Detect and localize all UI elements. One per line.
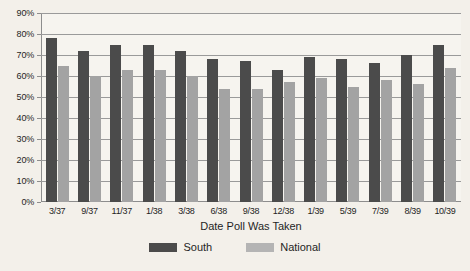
x-tick-label: 3/37 <box>41 203 73 219</box>
bar-south-9-38 <box>240 61 251 202</box>
x-tick-label: 1/38 <box>138 203 170 219</box>
x-tick-label: 9/38 <box>235 203 267 219</box>
y-tick-label: 10% <box>17 177 34 186</box>
y-tick-label: 80% <box>17 30 34 39</box>
bar-south-7-39 <box>369 63 380 202</box>
bar-group <box>429 13 461 202</box>
bar-group <box>332 13 364 202</box>
bar-group <box>41 13 73 202</box>
x-tick-label: 7/39 <box>364 203 396 219</box>
y-tick-label: 40% <box>17 114 34 123</box>
bar-national-7-39 <box>381 80 392 202</box>
bar-national-6-38 <box>219 89 230 202</box>
bar-south-1-38 <box>143 45 154 203</box>
bar-group <box>73 13 105 202</box>
bar-national-3-37 <box>58 66 69 203</box>
y-axis: 90%80%70%60%50%40%30%20%10%0% <box>0 0 41 203</box>
bar-national-1-39 <box>316 78 327 202</box>
y-tick-label: 0% <box>21 198 34 207</box>
y-tick-label: 20% <box>17 156 34 165</box>
legend-item-south: South <box>149 241 212 253</box>
bar-south-12-38 <box>272 70 283 202</box>
x-tick-label: 10/39 <box>429 203 461 219</box>
x-axis: 3/379/3711/371/383/386/389/3812/381/395/… <box>41 203 461 219</box>
x-tick-label: 3/38 <box>170 203 202 219</box>
y-tick-label: 60% <box>17 72 34 81</box>
bar-south-10-39 <box>433 45 444 203</box>
legend-label-national: National <box>280 241 320 253</box>
x-tick-label: 9/37 <box>73 203 105 219</box>
plot-area <box>41 13 461 202</box>
bar-national-9-37 <box>90 76 101 202</box>
y-tick-label: 30% <box>17 135 34 144</box>
x-tick-label: 6/38 <box>203 203 235 219</box>
bar-national-11-37 <box>122 70 133 202</box>
bar-group <box>396 13 428 202</box>
bar-south-1-39 <box>304 57 315 202</box>
bar-group <box>203 13 235 202</box>
y-tick-label: 90% <box>17 9 34 18</box>
bar-south-3-38 <box>175 51 186 202</box>
bars-layer <box>41 13 461 202</box>
bar-south-6-38 <box>207 59 218 202</box>
bar-group <box>170 13 202 202</box>
bar-national-10-39 <box>445 68 456 202</box>
bar-national-8-39 <box>413 84 424 202</box>
x-tick-label: 11/37 <box>106 203 138 219</box>
bar-group <box>235 13 267 202</box>
bar-group <box>106 13 138 202</box>
bar-south-9-37 <box>78 51 89 202</box>
bar-group <box>300 13 332 202</box>
bar-chart: 90%80%70%60%50%40%30%20%10%0% 3/379/3711… <box>0 0 470 271</box>
bar-group <box>267 13 299 202</box>
bar-national-12-38 <box>284 82 295 202</box>
x-tick-label: 8/39 <box>396 203 428 219</box>
bar-national-5-39 <box>348 87 359 203</box>
bar-national-3-38 <box>187 76 198 202</box>
x-axis-title: Date Poll Was Taken <box>41 220 461 233</box>
x-tick-label: 12/38 <box>267 203 299 219</box>
bar-south-11-37 <box>110 45 121 203</box>
bar-national-9-38 <box>252 89 263 202</box>
bar-south-3-37 <box>46 38 57 202</box>
legend-label-south: South <box>183 241 212 253</box>
national-swatch-icon <box>246 243 274 252</box>
bar-group <box>138 13 170 202</box>
y-tick-label: 70% <box>17 51 34 60</box>
bar-national-1-38 <box>155 70 166 202</box>
legend-item-national: National <box>246 241 320 253</box>
south-swatch-icon <box>149 243 177 252</box>
chart-legend: South National <box>0 241 470 253</box>
x-tick-label: 1/39 <box>300 203 332 219</box>
bar-south-8-39 <box>401 55 412 202</box>
y-tick-label: 50% <box>17 93 34 102</box>
x-tick-label: 5/39 <box>332 203 364 219</box>
bar-group <box>364 13 396 202</box>
bar-south-5-39 <box>336 59 347 202</box>
